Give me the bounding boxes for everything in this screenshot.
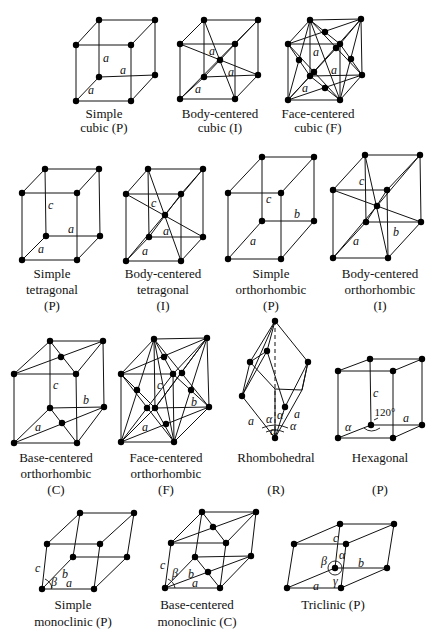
angle-label: α <box>339 548 346 562</box>
caption-line: monoclinic (C) <box>157 614 236 629</box>
caption-line: Simple <box>34 266 71 281</box>
lattice-simple-cubic: a a a Simple cubic (P) <box>73 17 158 135</box>
edge-label: c <box>333 531 339 545</box>
lattice-body-centered-cubic: a a a Body-centered cubic (I) <box>177 17 261 135</box>
edge-label: b <box>191 395 197 409</box>
edge-label: c <box>157 378 163 392</box>
caption-line: tetragonal <box>26 282 78 297</box>
caption-line: (P) <box>44 298 60 313</box>
edge-label: a <box>103 51 109 65</box>
lattice-triclinic: c b a α β γ Triclinic (P) <box>284 521 397 612</box>
angle-label: β <box>171 566 178 580</box>
edge-label: c <box>35 561 41 575</box>
edge-label: a <box>142 420 148 434</box>
lattice-simple-tetragonal: c a a Simple tetragonal (P) <box>19 166 103 313</box>
edge-label: c <box>48 198 54 212</box>
edge-label: a <box>163 224 169 238</box>
caption-line: Base-centered <box>160 597 234 612</box>
caption-line: Face-centered <box>282 106 355 121</box>
caption-line: Simple <box>86 106 123 121</box>
edge-label: a <box>403 411 409 425</box>
caption-line: orthorhombic <box>345 282 416 297</box>
angle-label: α <box>290 419 297 433</box>
angle-label: β <box>320 554 327 568</box>
caption-line: Triclinic (P) <box>301 597 364 612</box>
caption-line: cubic (I) <box>198 120 242 135</box>
caption-line: Body-centered <box>342 266 419 281</box>
edge-label: c <box>160 558 166 572</box>
caption-line: (P) <box>372 482 388 497</box>
caption-line: Body-centered <box>182 106 259 121</box>
edge-label: c <box>266 192 272 206</box>
bravais-lattices-diagram: a a a Simple cubic (P) a a a Body-center… <box>0 0 439 639</box>
caption-line: Simple <box>253 266 290 281</box>
lattice-body-centered-orthorhombic: c b a Body-centered orthorhombic (I) <box>330 152 424 313</box>
caption-line: Simple <box>55 597 92 612</box>
edge-label: a <box>120 63 126 77</box>
caption-line: Hexagonal <box>352 450 409 465</box>
edge-label: a <box>313 579 319 593</box>
edge-label: a <box>353 234 359 248</box>
caption-line: Rhombohedral <box>237 450 315 465</box>
angle-label: γ <box>333 574 338 588</box>
caption-line: (I) <box>157 298 170 313</box>
caption-line: orthorhombic <box>131 466 202 481</box>
edge-label: a <box>66 576 72 590</box>
caption-line: Base-centered <box>19 450 93 465</box>
caption-line: cubic (F) <box>294 120 341 135</box>
angle-label: α <box>270 424 277 438</box>
edge-label: a <box>209 44 215 58</box>
caption-line: monoclinic (P) <box>34 614 112 629</box>
caption-line: (P) <box>263 298 279 313</box>
lattice-body-centered-tetragonal: c a a Body-centered tetragonal (I) <box>123 166 206 313</box>
lattice-simple-orthorhombic: c b a Simple orthorhombic (P) <box>225 154 317 313</box>
caption-line: Face-centered <box>130 450 203 465</box>
caption-line: cubic (P) <box>80 120 127 135</box>
edge-label: a <box>88 83 94 97</box>
edge-label: a <box>142 244 148 258</box>
edge-label: a <box>313 45 319 59</box>
caption-line: Body-centered <box>125 266 202 281</box>
lattice-face-centered-orthorhombic: c b a Face-centered orthorhombic (F) <box>118 335 212 497</box>
lattice-simple-monoclinic: c b a β Simple monoclinic (P) <box>34 510 137 629</box>
caption-line: (C) <box>47 482 64 497</box>
angle-label: β <box>50 575 57 589</box>
edge-label: a <box>68 222 74 236</box>
edge-label: c <box>53 378 59 392</box>
lattice-base-centered-orthorhombic: c b a Base-centered orthorhombic (C) <box>11 338 107 497</box>
caption-line: tetragonal <box>137 282 189 297</box>
lattice-base-centered-monoclinic: c b a β Base-centered monoclinic (C) <box>157 509 259 629</box>
lattice-rhombohedral: a a α α α α Rhombohedral (R) <box>237 318 315 497</box>
edge-label: c <box>151 196 157 210</box>
lattice-hexagonal: c a α 120° Hexagonal (P) <box>335 356 425 497</box>
caption-line: orthorhombic <box>236 282 307 297</box>
angle-label: α <box>277 408 284 422</box>
edge-label: a <box>35 420 41 434</box>
edge-label: a <box>248 414 254 428</box>
edge-label: b <box>358 556 364 570</box>
caption-line: (R) <box>267 482 284 497</box>
edge-label: a <box>192 576 198 590</box>
edge-label: a <box>195 82 201 96</box>
edge-label: a <box>302 81 308 95</box>
caption-line: (F) <box>158 482 174 497</box>
edge-label: b <box>83 393 89 407</box>
edge-label: c <box>359 174 365 188</box>
edge-label: b <box>393 225 399 239</box>
lattice-face-centered-cubic: a a a Face-centered cubic (F) <box>282 16 366 135</box>
edge-label: a <box>228 65 234 79</box>
angle-label: 120° <box>375 406 396 418</box>
angle-label: α <box>345 420 352 434</box>
edge-label: a <box>38 242 44 256</box>
edge-label: a <box>250 234 256 248</box>
edge-label: a <box>331 63 337 77</box>
caption-line: (I) <box>374 298 387 313</box>
edge-label: c <box>373 386 379 400</box>
caption-line: orthorhombic <box>21 466 92 481</box>
edge-label: b <box>294 207 300 221</box>
